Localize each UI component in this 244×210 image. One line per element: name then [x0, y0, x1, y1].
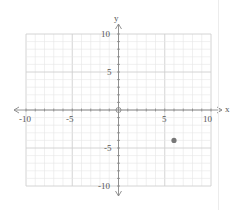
y-tick-label: -5: [104, 144, 112, 153]
data-points: [171, 138, 176, 143]
data-point: [171, 138, 176, 143]
x-tick-label: 5: [162, 115, 167, 124]
y-tick-label: -10: [98, 182, 110, 191]
axes: [14, 24, 222, 196]
page-separator: [218, 0, 219, 210]
x-tick-label: -10: [19, 115, 31, 124]
y-tick-label: 5: [107, 68, 112, 77]
y-tick-label: 10: [101, 30, 110, 39]
x-axis-label: x: [225, 105, 230, 114]
y-axis-label: y: [114, 14, 119, 23]
x-tick-label: 10: [203, 115, 212, 124]
coordinate-plane: [0, 0, 244, 210]
x-tick-label: -5: [66, 115, 74, 124]
